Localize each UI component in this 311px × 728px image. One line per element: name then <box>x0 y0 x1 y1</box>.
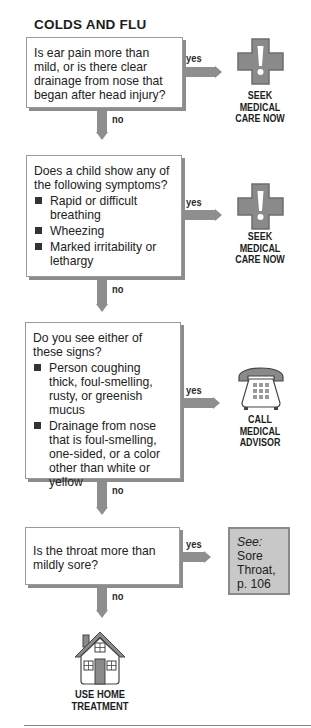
no-label: no <box>112 283 123 295</box>
medical-cross-icon <box>237 38 284 85</box>
outcome-seek-care-2: SEEK MEDICAL CARE NOW <box>235 231 286 266</box>
bullet-icon <box>34 422 41 429</box>
no-arrow <box>97 280 107 304</box>
question-box-1: Is ear pain more than mild, or is there … <box>26 37 183 108</box>
medical-cross-icon <box>237 183 284 230</box>
yes-label: yes <box>186 538 202 550</box>
reference-page: p. 106 <box>237 577 288 591</box>
bullet-icon <box>35 227 42 234</box>
question-box-4: Is the throat more than mildly sore? <box>25 527 180 585</box>
yes-label: yes <box>186 384 202 396</box>
page-title: COLDS AND FLU <box>34 17 146 32</box>
bullet-icon <box>35 243 42 250</box>
no-label: no <box>112 113 123 125</box>
bullet-icon <box>34 364 41 371</box>
question-text: Is ear pain more than mild, or is there … <box>34 46 174 102</box>
house-icon <box>73 629 127 685</box>
yes-arrow <box>182 210 215 220</box>
yes-arrow <box>180 552 204 562</box>
question-text: Do you see either of these signs? <box>33 331 172 359</box>
outcome-seek-care-1: SEEK MEDICAL CARE NOW <box>235 90 286 125</box>
see-label: See: <box>237 535 288 549</box>
no-arrow <box>97 482 107 507</box>
sign-item: Person coughing thick, foul-smelling, ru… <box>33 361 172 417</box>
bullet-icon <box>35 197 42 204</box>
no-arrow <box>97 111 107 132</box>
yes-arrow <box>183 67 215 77</box>
telephone-icon <box>236 363 286 411</box>
no-arrow <box>97 587 107 610</box>
symptom-item: Wheezing <box>34 224 173 238</box>
no-label: no <box>112 590 123 602</box>
bottom-divider <box>24 725 311 726</box>
question-box-2: Does a child show any of the following s… <box>26 155 182 277</box>
question-text: Does a child show any of the following s… <box>34 164 173 192</box>
symptom-item: Marked irritability or lethargy <box>34 240 173 268</box>
symptom-item: Rapid or difficult breathing <box>34 194 173 222</box>
sign-item: Drainage from nose that is foul-smelling… <box>33 419 172 489</box>
outcome-home-treatment: USE HOME TREATMENT <box>68 688 133 712</box>
question-text: Is the throat more than mildly sore? <box>33 544 171 572</box>
no-label: no <box>112 484 123 496</box>
yes-label: yes <box>186 196 202 208</box>
yes-arrow <box>181 398 213 408</box>
see-reference-box[interactable]: See: Sore Throat, p. 106 <box>228 527 290 595</box>
yes-label: yes <box>186 52 202 64</box>
question-box-3: Do you see either of these signs? Person… <box>25 322 181 479</box>
reference-line: Throat, <box>237 563 288 577</box>
reference-line: Sore <box>237 549 288 563</box>
outcome-call-advisor: CALL MEDICAL ADVISOR <box>234 414 287 449</box>
